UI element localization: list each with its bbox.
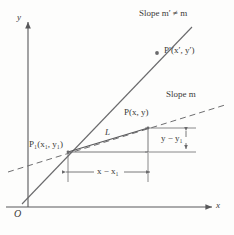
point-p-label: P(x, y) (124, 108, 149, 117)
y-axis-label: y (17, 13, 21, 22)
segment-L-label: L (105, 128, 110, 137)
geometry-figure: Slope m′ ≠ m Slope m P′(x′, y′) P(x, y) … (0, 0, 234, 235)
origin-label: O (14, 209, 21, 219)
x-axis-label: x (216, 201, 220, 210)
slope-m-prime-label: Slope m′ ≠ m (139, 9, 187, 18)
slope-m-label: Slope m (166, 90, 196, 99)
point-marker-p (147, 127, 150, 130)
point-marker-p-prime (155, 51, 159, 55)
run-label: x − x₁ (97, 167, 119, 176)
point-marker-p1 (67, 151, 70, 154)
point-p1-label: P₁(x₁, y₁) (29, 140, 63, 149)
point-p-prime-label: P′(x′, y′) (164, 46, 194, 55)
rise-label: y − y₁ (161, 134, 183, 143)
diagram-canvas (0, 0, 234, 235)
